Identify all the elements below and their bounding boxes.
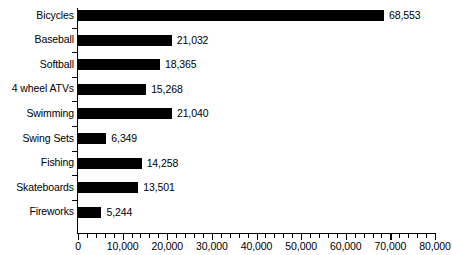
x-axis-minor-tick — [274, 234, 275, 238]
x-axis-minor-tick — [87, 234, 88, 238]
category-label: 4 wheel ATVs — [0, 82, 74, 94]
plot-area: 68,55321,03218,36515,26821,0406,34914,25… — [78, 10, 435, 232]
bar-value-label: 21,032 — [177, 33, 209, 47]
x-axis-minor-tick — [283, 234, 284, 238]
bar-row: 68,553 — [78, 10, 435, 21]
bar-value-label: 13,501 — [143, 180, 175, 194]
bar-row: 5,244 — [78, 207, 435, 218]
y-axis-tick — [72, 200, 77, 201]
bar-row: 21,040 — [78, 108, 435, 119]
category-label: Skateboards — [0, 181, 74, 193]
bar — [78, 84, 146, 95]
x-axis-minor-tick — [265, 234, 266, 238]
x-axis-minor-tick — [149, 234, 150, 238]
bar-row: 6,349 — [78, 133, 435, 144]
bar-row: 18,365 — [78, 59, 435, 70]
bar-value-label: 18,365 — [165, 57, 197, 71]
category-label: Softball — [0, 58, 74, 70]
x-axis-minor-tick — [292, 234, 293, 238]
y-axis-tick — [72, 151, 77, 152]
category-label: Swimming — [0, 107, 74, 119]
x-axis-minor-tick — [408, 234, 409, 238]
x-axis-tick-label: 20,000 — [151, 240, 183, 253]
bar — [78, 158, 142, 169]
x-axis-minor-tick — [248, 234, 249, 238]
bar — [78, 59, 160, 70]
x-axis-tick-label: 60,000 — [330, 240, 362, 253]
bar-value-label: 6,349 — [111, 131, 137, 145]
category-label: Swing Sets — [0, 132, 74, 144]
bar-chart: BicyclesBaseballSoftball4 wheel ATVsSwim… — [0, 0, 452, 255]
y-axis-tick — [72, 175, 77, 176]
x-axis-minor-tick — [105, 234, 106, 238]
x-axis-minor-tick — [158, 234, 159, 238]
bar — [78, 133, 106, 144]
x-axis-minor-tick — [96, 234, 97, 238]
x-axis-tick-label: 10,000 — [107, 240, 139, 253]
category-label: Baseball — [0, 33, 74, 45]
x-axis-minor-tick — [373, 234, 374, 238]
bar-row: 13,501 — [78, 182, 435, 193]
bar — [78, 207, 101, 218]
bar — [78, 182, 138, 193]
x-axis-minor-tick — [114, 234, 115, 238]
y-axis-tick — [72, 126, 77, 127]
bar-row: 15,268 — [78, 84, 435, 95]
x-axis-tick-label: 70,000 — [375, 240, 407, 253]
x-axis-tick-label: 80,000 — [419, 240, 451, 253]
bar — [78, 35, 172, 46]
category-label: Fishing — [0, 156, 74, 168]
y-axis-line — [77, 8, 78, 234]
x-axis-tick-label: 30,000 — [196, 240, 228, 253]
y-axis-tick — [72, 52, 77, 53]
x-axis-minor-tick — [132, 234, 133, 238]
bar-value-label: 68,553 — [389, 8, 421, 22]
x-axis-minor-tick — [194, 234, 195, 238]
category-label: Bicycles — [0, 9, 74, 21]
x-axis-minor-tick — [337, 234, 338, 238]
x-axis-minor-tick — [310, 234, 311, 238]
bar — [78, 10, 384, 21]
x-axis-minor-tick — [399, 234, 400, 238]
y-axis-tick — [72, 77, 77, 78]
bar-value-label: 5,244 — [106, 205, 132, 219]
y-axis-tick — [72, 28, 77, 29]
y-axis-tick — [72, 101, 77, 102]
bar-value-label: 21,040 — [177, 106, 209, 120]
x-axis-minor-tick — [176, 234, 177, 238]
x-axis-minor-tick — [221, 234, 222, 238]
bar — [78, 108, 172, 119]
x-axis-minor-tick — [355, 234, 356, 238]
bar-value-label: 14,258 — [147, 156, 179, 170]
x-axis-minor-tick — [185, 234, 186, 238]
x-axis-tick-label: 50,000 — [285, 240, 317, 253]
x-axis-tick-label: 40,000 — [241, 240, 273, 253]
category-label: Fireworks — [0, 205, 74, 217]
category-axis: BicyclesBaseballSoftball4 wheel ATVsSwim… — [0, 0, 74, 232]
bar-row: 21,032 — [78, 35, 435, 46]
x-axis-minor-tick — [426, 234, 427, 238]
x-axis-minor-tick — [364, 234, 365, 238]
x-axis-minor-tick — [230, 234, 231, 238]
x-axis-minor-tick — [381, 234, 382, 238]
x-axis-minor-tick — [328, 234, 329, 238]
x-axis-minor-tick — [203, 234, 204, 238]
bar-row: 14,258 — [78, 158, 435, 169]
x-axis-tick-label: 0 — [75, 240, 81, 253]
x-axis-minor-tick — [239, 234, 240, 238]
x-axis-minor-tick — [319, 234, 320, 238]
x-axis-minor-tick — [140, 234, 141, 238]
bar-value-label: 15,268 — [151, 82, 183, 96]
x-axis-minor-tick — [417, 234, 418, 238]
